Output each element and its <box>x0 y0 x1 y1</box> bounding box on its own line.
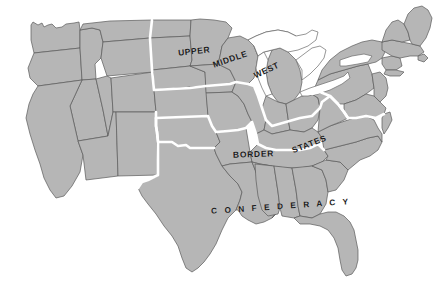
state-oregon <box>28 48 82 86</box>
state-wyoming <box>101 38 153 76</box>
state-florida <box>294 212 358 276</box>
state-arkansas <box>214 128 252 166</box>
us-regions-map: UPPER MIDDLE WEST BORDER STATES C O N F … <box>0 0 438 290</box>
map-svg <box>0 0 438 290</box>
state-long-island <box>384 70 404 76</box>
state-shapes-layer <box>26 6 432 276</box>
state-north-dakota <box>150 20 191 38</box>
state-new-mexico <box>116 112 158 176</box>
state-cape-cod <box>418 54 428 62</box>
state-south-dakota <box>150 36 192 70</box>
state-washington <box>31 22 80 53</box>
state-idaho <box>80 28 103 80</box>
state-michigan-lower <box>266 48 302 104</box>
state-colorado <box>111 72 156 112</box>
